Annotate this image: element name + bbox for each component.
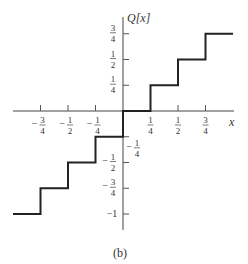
svg-text:3: 3 (111, 177, 116, 187)
svg-text:−1: −1 (107, 208, 118, 219)
svg-text:4: 4 (95, 126, 100, 136)
tick-labels: −34−12−14141234341214−14−12−34−1 (32, 23, 209, 219)
x-axis-label: x (228, 115, 235, 129)
x-tick-label: 34 (203, 115, 209, 136)
svg-text:4: 4 (111, 188, 116, 198)
svg-text:1: 1 (111, 74, 116, 84)
x-tick-label: −12 (59, 115, 73, 136)
y-tick-label: 12 (110, 49, 116, 70)
svg-text:1: 1 (135, 138, 140, 148)
y-tick-label: 34 (110, 23, 116, 44)
svg-text:4: 4 (40, 126, 45, 136)
y-tick-label: 14 (110, 74, 116, 95)
svg-text:3: 3 (203, 115, 208, 125)
quantizer-staircase-chart: −34−12−14141234341214−14−12−34−1 Q[x] x … (0, 0, 248, 264)
svg-text:2: 2 (176, 126, 181, 136)
svg-text:1: 1 (111, 49, 116, 59)
x-tick-label: 12 (175, 115, 181, 136)
y-axis-label: Q[x] (127, 11, 151, 25)
x-tick-label: −34 (32, 115, 46, 136)
svg-text:4: 4 (203, 126, 208, 136)
svg-text:1: 1 (95, 115, 100, 125)
y-tick-label: −12 (102, 152, 116, 173)
svg-text:3: 3 (40, 115, 45, 125)
svg-text:4: 4 (111, 85, 116, 95)
svg-text:2: 2 (111, 60, 116, 70)
svg-text:−: − (59, 118, 65, 129)
svg-text:4: 4 (111, 34, 116, 44)
svg-text:3: 3 (111, 23, 116, 33)
svg-text:1: 1 (176, 115, 181, 125)
x-tick-label: −14 (87, 115, 101, 136)
y-tick-label: −14 (126, 138, 140, 159)
svg-text:−: − (87, 118, 93, 129)
svg-text:−: − (32, 118, 38, 129)
svg-text:4: 4 (135, 149, 140, 159)
svg-text:1: 1 (68, 115, 73, 125)
svg-text:1: 1 (111, 152, 116, 162)
svg-text:−: − (102, 155, 108, 166)
y-tick-label: −1 (107, 208, 118, 219)
svg-text:−: − (102, 180, 108, 191)
svg-text:4: 4 (148, 126, 153, 136)
svg-text:2: 2 (111, 163, 116, 173)
x-tick-label: 14 (148, 115, 154, 136)
svg-text:−: − (126, 141, 132, 152)
svg-text:1: 1 (148, 115, 153, 125)
figure-caption: (b) (113, 246, 127, 260)
y-tick-label: −34 (102, 177, 116, 198)
svg-text:2: 2 (68, 126, 73, 136)
